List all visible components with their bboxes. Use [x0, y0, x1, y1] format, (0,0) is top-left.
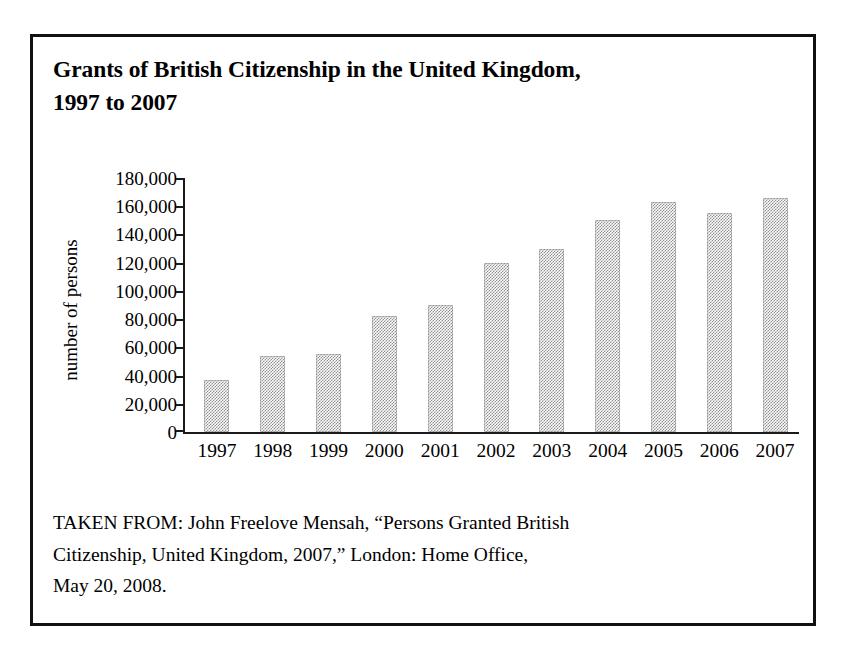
x-axis-line	[183, 432, 799, 434]
y-axis-tick-label: 140,000	[77, 225, 177, 244]
y-axis-tick-mark	[176, 347, 183, 349]
bar	[372, 316, 397, 432]
y-axis-tick-mark	[176, 430, 183, 432]
x-axis-tick-label: 2001	[421, 441, 460, 461]
y-axis-tick-labels: 180,000160,000140,000120,000100,00080,00…	[77, 169, 177, 433]
bar	[428, 305, 453, 432]
y-axis-tick-label: 80,000	[77, 310, 177, 329]
figure-page: Grants of British Citizenship in the Uni…	[0, 0, 847, 658]
y-axis-tick-label: 40,000	[77, 366, 177, 385]
source-line-1: TAKEN FROM: John Freelove Mensah, “Perso…	[53, 507, 753, 539]
bar	[484, 263, 509, 432]
y-axis-tick-mark	[176, 291, 183, 293]
y-axis-tick-label: 0	[77, 423, 177, 442]
y-axis-tick-label: 120,000	[77, 253, 177, 272]
bar	[707, 213, 732, 432]
x-axis-tick-label: 2004	[588, 441, 627, 461]
y-axis-tick-mark	[176, 178, 183, 180]
y-axis-tick-mark	[176, 206, 183, 208]
x-axis-tick-labels: 1997199819992000200120022003200420052006…	[183, 441, 801, 475]
x-axis-tick-label: 2006	[700, 441, 739, 461]
x-axis-tick-label: 2000	[365, 441, 404, 461]
x-axis-tick-label: 2007	[756, 441, 795, 461]
y-axis-tick-label: 100,000	[77, 281, 177, 300]
x-axis-tick-label: 1998	[253, 441, 292, 461]
bar	[539, 249, 564, 432]
x-axis-tick-label: 2002	[477, 441, 516, 461]
x-axis-tick-label: 2003	[532, 441, 571, 461]
y-axis-tick-label: 60,000	[77, 338, 177, 357]
y-axis-tick-label: 180,000	[77, 169, 177, 188]
bar	[763, 198, 788, 432]
figure-border-box: Grants of British Citizenship in the Uni…	[30, 34, 816, 626]
bar	[260, 356, 285, 432]
y-axis-tick-mark	[176, 263, 183, 265]
y-axis-tick-label: 20,000	[77, 394, 177, 413]
y-axis-tick-mark	[176, 319, 183, 321]
x-axis-tick-label: 1999	[309, 441, 348, 461]
x-axis-tick-label: 2005	[644, 441, 683, 461]
source-line-3: May 20, 2008.	[53, 570, 753, 602]
bar	[651, 202, 676, 432]
y-axis-tick-mark	[176, 376, 183, 378]
source-line-2: Citizenship, United Kingdom, 2007,” Lond…	[53, 539, 753, 571]
y-axis-tick-mark	[176, 404, 183, 406]
y-axis-tick-label: 160,000	[77, 197, 177, 216]
bar	[316, 354, 341, 432]
bar-series	[185, 178, 799, 432]
y-axis-tick-mark	[176, 234, 183, 236]
bar	[204, 380, 229, 432]
plot-region	[183, 178, 799, 434]
source-attribution: TAKEN FROM: John Freelove Mensah, “Perso…	[53, 507, 753, 602]
bar	[595, 220, 620, 432]
x-axis-tick-label: 1997	[197, 441, 236, 461]
